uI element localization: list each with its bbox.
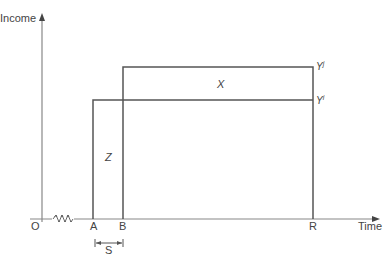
y-axis-arrow-icon [39,13,45,21]
lower-level-label: Yi [316,94,325,106]
origin-label: O [31,220,40,232]
lower-income-profile [93,100,313,219]
upper-level-label: Yj [316,60,325,72]
y-axis-label: Income [0,12,36,24]
point-r-label: R [309,220,317,232]
region-z-label: Z [104,151,113,163]
x-axis-label: Time [358,220,382,232]
point-b-label: B [119,220,126,232]
point-a-label: A [90,220,98,232]
interval-s-label: S [105,244,112,256]
region-x-label: X [216,78,225,90]
income-time-diagram: Income Time O A B R S X Z Yj Yi [0,0,388,260]
